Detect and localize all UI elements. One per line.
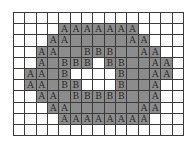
region-cell bbox=[104, 34, 115, 45]
outer-boundary-cell: A bbox=[58, 34, 69, 45]
empty-cell bbox=[81, 79, 92, 90]
empty-cell bbox=[126, 12, 137, 23]
inner-boundary-cell: B bbox=[81, 90, 92, 101]
region-cell bbox=[126, 46, 137, 57]
outer-boundary-cell: A bbox=[36, 46, 47, 57]
inner-boundary-cell: B bbox=[58, 68, 69, 79]
inner-boundary-cell: B bbox=[104, 57, 115, 68]
empty-cell bbox=[92, 12, 103, 23]
empty-cell bbox=[172, 68, 183, 79]
empty-cell bbox=[81, 124, 92, 135]
empty-cell bbox=[104, 124, 115, 135]
region-cell bbox=[81, 34, 92, 45]
inner-boundary-cell: B bbox=[92, 46, 103, 57]
empty-cell bbox=[70, 12, 81, 23]
outer-boundary-cell: A bbox=[58, 23, 69, 34]
region-cell bbox=[70, 34, 81, 45]
empty-cell bbox=[13, 124, 24, 135]
empty-cell bbox=[115, 12, 126, 23]
empty-cell bbox=[24, 23, 35, 34]
outer-boundary-cell: A bbox=[24, 68, 35, 79]
empty-cell bbox=[172, 124, 183, 135]
region-cell bbox=[70, 102, 81, 113]
inner-boundary-cell: B bbox=[92, 90, 103, 101]
empty-cell bbox=[70, 68, 81, 79]
inner-boundary-cell: B bbox=[81, 57, 92, 68]
outer-boundary-cell: A bbox=[126, 23, 137, 34]
empty-cell bbox=[47, 124, 58, 135]
labeled-grid-diagram: AAAAAAAAAAAAABBBAAABBBBBAAAABBAAAABBBAAA… bbox=[13, 12, 184, 136]
region-cell bbox=[81, 102, 92, 113]
inner-boundary-cell: B bbox=[70, 90, 81, 101]
empty-cell bbox=[13, 90, 24, 101]
region-cell bbox=[58, 46, 69, 57]
outer-boundary-cell: A bbox=[47, 90, 58, 101]
empty-cell bbox=[160, 23, 171, 34]
empty-cell bbox=[24, 46, 35, 57]
empty-cell bbox=[160, 90, 171, 101]
outer-boundary-cell: A bbox=[149, 90, 160, 101]
empty-cell bbox=[24, 102, 35, 113]
empty-cell bbox=[13, 79, 24, 90]
empty-cell bbox=[13, 57, 24, 68]
inner-boundary-cell: B bbox=[104, 46, 115, 57]
empty-cell bbox=[92, 124, 103, 135]
outer-boundary-cell: A bbox=[70, 23, 81, 34]
region-cell bbox=[47, 57, 58, 68]
empty-cell bbox=[104, 68, 115, 79]
inner-boundary-cell: B bbox=[115, 57, 126, 68]
empty-cell bbox=[24, 113, 35, 124]
outer-boundary-cell: A bbox=[149, 46, 160, 57]
outer-boundary-cell: A bbox=[149, 57, 160, 68]
empty-cell bbox=[104, 12, 115, 23]
empty-cell bbox=[149, 113, 160, 124]
empty-cell bbox=[58, 12, 69, 23]
region-cell bbox=[104, 102, 115, 113]
empty-cell bbox=[24, 12, 35, 23]
empty-cell bbox=[138, 124, 149, 135]
empty-cell bbox=[149, 34, 160, 45]
empty-cell bbox=[160, 46, 171, 57]
empty-cell bbox=[24, 90, 35, 101]
region-cell bbox=[126, 79, 137, 90]
empty-cell bbox=[172, 34, 183, 45]
region-cell bbox=[138, 79, 149, 90]
outer-boundary-cell: A bbox=[70, 113, 81, 124]
empty-cell bbox=[36, 113, 47, 124]
empty-cell bbox=[47, 113, 58, 124]
empty-cell bbox=[172, 23, 183, 34]
empty-cell bbox=[149, 124, 160, 135]
empty-cell bbox=[92, 57, 103, 68]
empty-cell bbox=[172, 113, 183, 124]
outer-boundary-cell: A bbox=[104, 23, 115, 34]
empty-cell bbox=[160, 12, 171, 23]
inner-boundary-cell: B bbox=[70, 57, 81, 68]
empty-cell bbox=[172, 102, 183, 113]
outer-boundary-cell: A bbox=[58, 102, 69, 113]
empty-cell bbox=[92, 79, 103, 90]
outer-boundary-cell: A bbox=[92, 23, 103, 34]
empty-cell bbox=[160, 34, 171, 45]
outer-boundary-cell: A bbox=[81, 23, 92, 34]
outer-boundary-cell: A bbox=[58, 113, 69, 124]
outer-boundary-cell: A bbox=[149, 68, 160, 79]
region-cell bbox=[92, 102, 103, 113]
inner-boundary-cell: B bbox=[115, 90, 126, 101]
outer-boundary-cell: A bbox=[149, 79, 160, 90]
inner-boundary-cell: B bbox=[115, 79, 126, 90]
empty-cell bbox=[13, 102, 24, 113]
inner-boundary-cell: B bbox=[70, 79, 81, 90]
outer-boundary-cell: A bbox=[36, 90, 47, 101]
empty-cell bbox=[13, 68, 24, 79]
inner-boundary-cell: B bbox=[81, 46, 92, 57]
empty-cell bbox=[160, 113, 171, 124]
region-cell bbox=[138, 57, 149, 68]
empty-cell bbox=[172, 12, 183, 23]
empty-cell bbox=[92, 68, 103, 79]
empty-cell bbox=[13, 46, 24, 57]
region-cell bbox=[115, 102, 126, 113]
region-cell bbox=[58, 90, 69, 101]
empty-cell bbox=[36, 34, 47, 45]
outer-boundary-cell: A bbox=[115, 23, 126, 34]
outer-boundary-cell: A bbox=[36, 68, 47, 79]
